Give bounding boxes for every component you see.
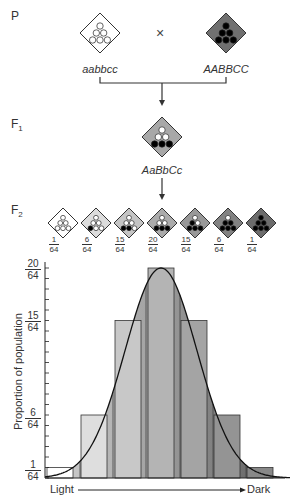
genotype-f1: AaBbCc xyxy=(122,164,202,176)
dominant-allele-dot xyxy=(253,226,258,231)
dominant-allele-dot xyxy=(159,141,165,147)
dominant-allele-dot xyxy=(219,30,225,36)
dominant-allele-dot xyxy=(121,226,126,231)
f2-fraction-6: 164 xyxy=(247,235,257,254)
recessive-allele-dot xyxy=(97,23,103,29)
dominant-allele-dot xyxy=(228,221,233,226)
dominant-allele-dot xyxy=(226,226,231,231)
y-axis-label: Proportion of population xyxy=(12,313,24,430)
recessive-allele-dot xyxy=(61,226,66,231)
dominant-allele-dot xyxy=(154,226,159,231)
recessive-allele-dot xyxy=(58,221,63,226)
dominant-allele-dot xyxy=(223,221,228,226)
bar-2 xyxy=(115,321,141,479)
x-axis-label-light: Light xyxy=(50,483,74,495)
dominant-allele-dot xyxy=(261,221,266,226)
dominant-allele-dot xyxy=(127,226,132,231)
bar-4 xyxy=(181,321,207,479)
recessive-allele-dot xyxy=(97,37,103,43)
f2-diamond-4 xyxy=(180,208,210,238)
f2-fraction-0: 164 xyxy=(49,235,59,254)
arrow-down-icon xyxy=(159,194,165,200)
f2-diamond-1 xyxy=(81,208,111,238)
recessive-allele-dot xyxy=(99,226,104,231)
arrow-down-icon xyxy=(159,100,165,106)
dominant-allele-dot xyxy=(198,226,203,231)
f2-fraction-2: 1564 xyxy=(115,235,125,254)
recessive-allele-dot xyxy=(124,221,129,226)
ytick-label-20: 2064 xyxy=(25,258,41,281)
recessive-allele-dot xyxy=(195,221,200,226)
recessive-allele-dot xyxy=(94,226,99,231)
dominant-allele-dot xyxy=(165,226,170,231)
dominant-allele-dot xyxy=(215,37,221,43)
dominant-allele-dot xyxy=(166,141,172,147)
recessive-allele-dot xyxy=(91,221,96,226)
cross-symbol: × xyxy=(156,25,164,41)
x-axis-label-dark: Dark xyxy=(247,483,270,495)
recessive-allele-dot xyxy=(55,226,60,231)
f2-diamond-0 xyxy=(48,208,78,238)
f2-diamond-6 xyxy=(246,208,276,238)
recessive-allele-dot xyxy=(127,215,132,220)
dominant-allele-dot xyxy=(223,37,229,43)
recessive-allele-dot xyxy=(193,215,198,220)
arrow-right-icon xyxy=(240,488,246,493)
dominant-allele-dot xyxy=(226,30,232,36)
ytick-label-6: 664 xyxy=(25,407,41,430)
ytick-label-1: 164 xyxy=(25,459,41,482)
bar-1 xyxy=(81,415,107,478)
recessive-allele-dot xyxy=(162,221,167,226)
ytick-label-15: 1564 xyxy=(25,310,41,333)
f2-diamond-5 xyxy=(213,208,243,238)
recessive-allele-dot xyxy=(66,226,71,231)
recessive-allele-dot xyxy=(155,134,161,140)
f2-fraction-1: 664 xyxy=(82,235,92,254)
f1-diamond xyxy=(142,117,182,157)
recessive-allele-dot xyxy=(132,226,137,231)
recessive-allele-dot xyxy=(89,37,95,43)
recessive-allele-dot xyxy=(159,127,165,133)
recessive-allele-dot xyxy=(162,134,168,140)
dominant-allele-dot xyxy=(193,226,198,231)
genotype-left-parent: aabbcc xyxy=(60,63,140,75)
recessive-allele-dot xyxy=(104,37,110,43)
recessive-allele-dot xyxy=(94,215,99,220)
dominant-allele-dot xyxy=(230,37,236,43)
f2-fraction-3: 2064 xyxy=(148,235,158,254)
recessive-allele-dot xyxy=(93,30,99,36)
recessive-allele-dot xyxy=(63,221,68,226)
recessive-allele-dot xyxy=(160,215,165,220)
recessive-allele-dot xyxy=(129,221,134,226)
dominant-allele-dot xyxy=(231,226,236,231)
dominant-allele-dot xyxy=(187,226,192,231)
f2-fraction-5: 664 xyxy=(214,235,224,254)
dominant-allele-dot xyxy=(259,226,264,231)
recessive-allele-dot xyxy=(61,215,66,220)
f2-fraction-4: 1564 xyxy=(181,235,191,254)
dominant-allele-dot xyxy=(220,226,225,231)
dominant-allele-dot xyxy=(264,226,269,231)
dominant-allele-dot xyxy=(88,226,93,231)
bar-3 xyxy=(148,268,174,478)
recessive-allele-dot xyxy=(157,221,162,226)
dominant-allele-dot xyxy=(190,221,195,226)
parent-aabbcc-diamond xyxy=(80,13,120,53)
bar-5 xyxy=(214,415,240,478)
f2-diamond-3 xyxy=(147,208,177,238)
dominant-allele-dot xyxy=(256,221,261,226)
f2-diamond-2 xyxy=(114,208,144,238)
recessive-allele-dot xyxy=(96,221,101,226)
dominant-allele-dot xyxy=(223,23,229,29)
dominant-allele-dot xyxy=(151,141,157,147)
dominant-allele-dot xyxy=(160,226,165,231)
dominant-allele-dot xyxy=(259,215,264,220)
recessive-allele-dot xyxy=(226,215,231,220)
parent-AABBCC-diamond xyxy=(206,13,246,53)
recessive-allele-dot xyxy=(100,30,106,36)
genotype-right-parent: AABBCC xyxy=(186,63,266,75)
